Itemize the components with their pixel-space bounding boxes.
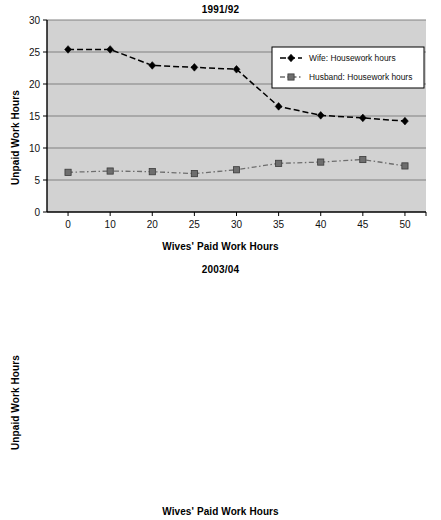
data-point-husband [402, 163, 408, 169]
legend-label: Husband: Housework hours [309, 72, 412, 82]
y-tick-label: 25 [29, 47, 41, 58]
data-point-husband [233, 167, 239, 173]
x-tick-label: 40 [315, 219, 327, 230]
chart-panel-1991-92: 1991/92 Unpaid Work Hours 05101520253001… [0, 0, 441, 260]
x-tick-label: 35 [273, 219, 285, 230]
x-tick-label: 45 [357, 219, 369, 230]
x-tick-label: 20 [147, 219, 159, 230]
data-point-husband [65, 169, 71, 175]
y-tick-label: 15 [29, 111, 41, 122]
x-tick-label: 0 [65, 219, 71, 230]
legend-label: Wife: Housework hours [309, 53, 396, 63]
data-point-husband [107, 168, 113, 174]
data-point-husband [360, 156, 366, 162]
y-tick-label: 0 [34, 207, 40, 218]
y-tick-label: 30 [29, 15, 41, 26]
plot-area-2003/04: 05101520253001020253035404550Wife: House… [0, 260, 441, 520]
x-axis-label: Wives' Paid Work Hours [0, 506, 441, 517]
y-tick-label: 20 [29, 79, 41, 90]
plot-area-1991/92: 05101520253001020253035404550Wife: House… [0, 0, 441, 260]
x-tick-label: 30 [231, 219, 243, 230]
x-tick-label: 50 [399, 219, 411, 230]
chart-legend: Wife: Housework hoursHusband: Housework … [272, 47, 424, 88]
data-point-husband [318, 159, 324, 165]
y-tick-label: 5 [34, 175, 40, 186]
legend-marker [288, 74, 294, 80]
data-point-husband [149, 169, 155, 175]
data-point-husband [191, 171, 197, 177]
x-axis-label: Wives' Paid Work Hours [0, 241, 441, 252]
chart-panel-2003-04: 2003/04 Unpaid Work Hours 05101520253001… [0, 260, 441, 520]
x-tick-label: 10 [105, 219, 117, 230]
y-tick-label: 10 [29, 143, 41, 154]
x-tick-label: 25 [189, 219, 201, 230]
data-point-husband [276, 160, 282, 166]
